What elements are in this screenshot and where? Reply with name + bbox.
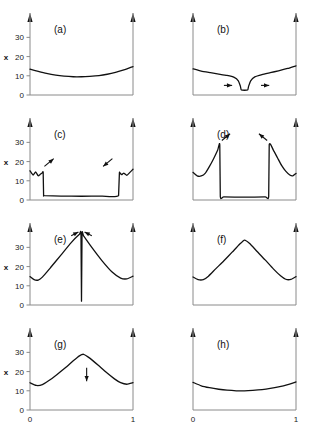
plot-frame [30, 127, 133, 200]
plot-frame [193, 22, 296, 95]
data-curve [30, 67, 133, 77]
multi-panel-figure: 0102030x(a)(b)0102030x(c)(d)0102030x(e)(… [0, 0, 326, 425]
panel-label: (c) [54, 129, 66, 140]
annotation-arrow-head [85, 376, 89, 381]
y-axis-tick-label: 30 [15, 348, 24, 357]
x-axis-tick-label: 0 [191, 415, 196, 424]
y-axis-tick-label: 10 [15, 387, 24, 396]
panel-b: (b) [190, 13, 298, 95]
y-axis-name: x [4, 263, 9, 272]
x-axis-tick-label: 0 [28, 415, 33, 424]
y-axis-name: x [4, 53, 9, 62]
panel-e: 0102030x(e) [4, 223, 136, 310]
y-axis-tick-label: 20 [15, 263, 24, 272]
plot-frame [193, 337, 296, 410]
y-axis-tick-label: 20 [15, 53, 24, 62]
x-axis-tick-label: 1 [131, 415, 136, 424]
panel-label: (e) [54, 234, 66, 245]
y-axis-tick-label: 20 [15, 158, 24, 167]
data-curve [30, 169, 133, 196]
y-axis-name: x [4, 368, 9, 377]
y-axis-name: x [4, 158, 9, 167]
panel-label: (g) [54, 339, 66, 350]
y-axis-tick-label: 10 [15, 72, 24, 81]
y-axis-tick-label: 0 [20, 406, 25, 415]
panel-d: (d) [190, 118, 298, 200]
panel-h: 01(h) [190, 328, 298, 424]
data-curve [193, 66, 296, 90]
panel-label: (f) [217, 234, 226, 245]
y-axis-tick-label: 30 [15, 243, 24, 252]
panel-f: (f) [190, 223, 298, 305]
y-axis-tick-label: 30 [15, 33, 24, 42]
data-curve [30, 231, 133, 301]
annotation-arrow-head [85, 232, 91, 236]
panel-a: 0102030x(a) [4, 13, 136, 100]
panels-root: 0102030x(a)(b)0102030x(c)(d)0102030x(e)(… [4, 13, 299, 424]
y-axis-tick-label: 10 [15, 282, 24, 291]
y-axis-tick-label: 0 [20, 301, 25, 310]
annotation-arrow-head [227, 83, 232, 87]
data-curve [30, 354, 133, 385]
plot-frame [30, 22, 133, 95]
panel-g: 0102030x01(g) [4, 328, 136, 424]
y-axis-tick-label: 20 [15, 368, 24, 377]
data-curve [193, 382, 296, 391]
annotation-arrow-head [264, 83, 269, 87]
panel-c: 0102030x(c) [4, 118, 136, 205]
plot-frame [193, 232, 296, 305]
panel-label: (a) [54, 24, 66, 35]
panel-label: (b) [217, 24, 229, 35]
panel-label: (h) [217, 339, 229, 350]
y-axis-tick-label: 0 [20, 196, 25, 205]
y-axis-tick-label: 10 [15, 177, 24, 186]
y-axis-tick-label: 30 [15, 138, 24, 147]
data-curve [193, 144, 296, 199]
data-curve [193, 240, 296, 280]
x-axis-tick-label: 1 [294, 415, 299, 424]
plot-frame [30, 337, 133, 410]
y-axis-tick-label: 0 [20, 91, 25, 100]
